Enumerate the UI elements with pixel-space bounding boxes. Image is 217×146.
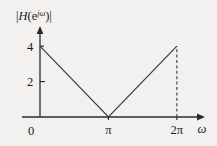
y-tick-label-4: 4 xyxy=(27,40,34,54)
x-tick-label-pi: π xyxy=(105,123,112,137)
x-tick-label-0: 0 xyxy=(28,124,34,138)
x-axis-arrow-icon xyxy=(197,114,205,121)
y-axis-arrow-icon xyxy=(37,26,44,34)
x-axis-label: ω xyxy=(198,122,207,136)
magnitude-response-curve xyxy=(40,46,177,117)
x-tick-label-2pi: 2π xyxy=(171,123,184,137)
magnitude-response-figure: |H(ejω)| 4 2 0 π 2π ω xyxy=(0,0,217,146)
y-axis-label: |H(ejω)| xyxy=(16,9,52,23)
y-tick-label-2: 2 xyxy=(27,75,33,89)
chart-svg: |H(ejω)| 4 2 0 π 2π ω xyxy=(0,0,217,146)
